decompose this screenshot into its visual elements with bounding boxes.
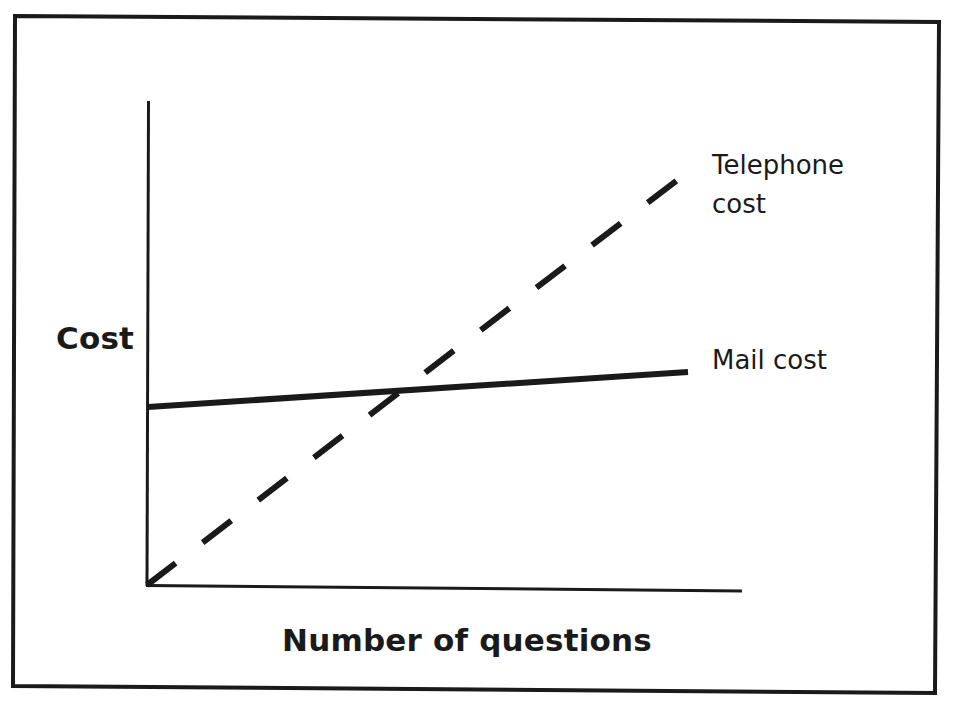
telephone-cost-label-line2: cost [712,185,872,224]
telephone-cost-label-line1: Telephone [712,146,872,185]
y-axis [147,101,149,586]
cropped-caption [0,700,953,708]
mail-cost-label: Mail cost [712,341,827,380]
mail-cost-line [148,372,688,407]
telephone-cost-label: Telephone cost [712,146,872,224]
telephone-cost-line [147,178,680,585]
x-axis-title: Number of questions [282,622,652,658]
y-axis-title: Cost [56,320,134,356]
x-axis [146,586,742,592]
figure: Cost Number of questions Telephone cost … [0,0,953,708]
